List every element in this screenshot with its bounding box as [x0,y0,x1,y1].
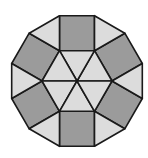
dodecagon-tiling-figure [0,0,148,158]
square-tile [60,16,95,51]
square-tile [60,111,95,146]
tiling-svg [0,0,148,158]
